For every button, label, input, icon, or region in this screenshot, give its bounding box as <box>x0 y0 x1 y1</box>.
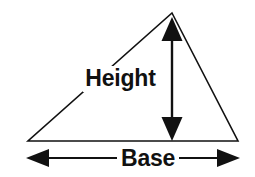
triangle-diagram: Height Base <box>0 0 255 177</box>
height-label: Height <box>82 66 158 92</box>
base-arrow-head-right <box>217 149 240 167</box>
height-dimension-arrow <box>162 17 183 141</box>
base-arrow-head-left <box>26 149 49 167</box>
base-label: Base <box>117 146 179 172</box>
height-arrow-head-down <box>162 117 183 141</box>
